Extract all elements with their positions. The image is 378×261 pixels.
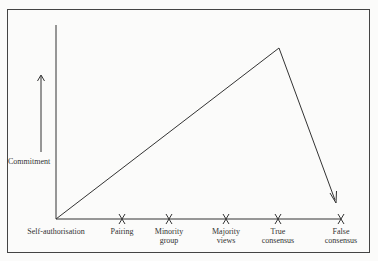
stage-label-line: False [301,227,378,236]
stage-label-line: consensus [301,236,378,245]
commitment-path [56,48,335,219]
path-arrowhead-icon [330,191,337,203]
commitment-arrow-icon [38,75,45,152]
frame [8,10,370,253]
stage-label-false-consensus: Falseconsensus [301,227,378,245]
diagram-canvas [0,0,378,261]
y-axis-label: Commitment [8,157,50,166]
